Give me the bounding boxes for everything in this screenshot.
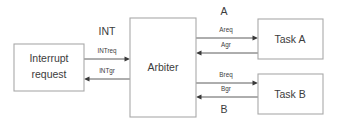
signal-breq-arrowhead: [253, 81, 259, 86]
block-task-a: Task A: [258, 19, 323, 59]
group-label-b: B: [220, 103, 227, 115]
signal-intreq: INTreq: [84, 47, 130, 62]
signal-areq-arrowhead: [253, 36, 259, 41]
signal-areq: Areq: [196, 26, 258, 41]
block-arbiter-label: Arbiter: [148, 61, 179, 73]
group-label-int: INT: [99, 25, 117, 37]
block-arbiter: Arbiter: [130, 18, 196, 117]
block-interrupt-request-label-line1: Interrupt: [29, 52, 68, 64]
signal-agr-label: Agr: [221, 41, 231, 49]
signal-intgr-label: INTgr: [99, 67, 115, 75]
signal-breq-label: Breq: [219, 71, 233, 79]
block-interrupt-request-label-line2: request: [31, 68, 66, 80]
block-interrupt-request: Interrupt request: [14, 44, 84, 91]
signal-bgr: Bgr: [196, 85, 258, 100]
signal-intgr: INTgr: [84, 67, 130, 82]
signal-bgr-arrowhead: [196, 95, 202, 100]
signal-agr: Agr: [196, 41, 258, 56]
signal-bgr-label: Bgr: [221, 85, 231, 93]
diagram-canvas: INTreq INTgr Areq Agr Breq Bgr: [0, 0, 338, 126]
block-task-a-label: Task A: [275, 33, 306, 45]
arbiter-block-diagram: INTreq INTgr Areq Agr Breq Bgr: [0, 0, 338, 126]
block-task-b: Task B: [258, 74, 323, 114]
group-label-a: A: [220, 5, 227, 17]
signal-intreq-arrowhead: [125, 57, 131, 62]
signal-agr-arrowhead: [196, 51, 202, 56]
signal-intreq-label: INTreq: [97, 47, 117, 55]
signal-intgr-arrowhead: [84, 77, 90, 82]
signal-areq-label: Areq: [219, 26, 233, 34]
block-task-b-label: Task B: [274, 88, 306, 100]
signal-breq: Breq: [196, 71, 258, 86]
